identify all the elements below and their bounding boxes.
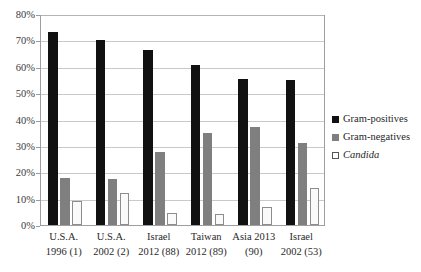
x-axis-category-label: U.S.A.1996 (1) — [40, 229, 88, 259]
bar — [48, 32, 58, 225]
bar — [108, 179, 118, 225]
bar-group — [48, 15, 82, 225]
bar — [143, 50, 153, 225]
y-axis-tick-label: 10% — [16, 195, 35, 205]
bar-group — [286, 15, 320, 225]
legend-label: Candida — [343, 149, 379, 161]
y-axis-tick-label: 50% — [16, 89, 35, 99]
y-axis: 0%10%20%30%40%50%60%70%80% — [0, 0, 40, 272]
bar-group — [96, 15, 130, 225]
bars-layer — [41, 15, 324, 225]
y-axis-tick-label: 60% — [16, 63, 35, 73]
legend-swatch-icon — [332, 134, 339, 141]
legend-item[interactable]: Candida — [332, 146, 421, 164]
bar-chart: 0%10%20%30%40%50%60%70%80% U.S.A.1996 (1… — [0, 0, 421, 272]
x-axis-category-labels: U.S.A.1996 (1)U.S.A.2002 (2)Israel2012 (… — [40, 229, 325, 272]
chart-legend: Gram-positivesGram-negativesCandida — [332, 110, 421, 164]
legend-swatch-icon — [332, 116, 339, 123]
bar-group — [191, 15, 225, 225]
bar — [238, 79, 248, 225]
x-axis-category-label: Asia 2013(90) — [230, 229, 278, 259]
x-axis-category-label: Israel2002 (53) — [278, 229, 326, 259]
bar — [167, 213, 177, 225]
bar — [60, 178, 70, 225]
y-axis-tick-label: 30% — [16, 142, 35, 152]
y-axis-tick-label: 80% — [16, 10, 35, 20]
bar — [72, 201, 82, 225]
bar — [120, 193, 130, 225]
x-axis-category-label: Taiwan2012 (89) — [183, 229, 231, 259]
bar — [298, 143, 308, 225]
legend-item[interactable]: Gram-positives — [332, 110, 421, 128]
x-axis-category-label: U.S.A.2002 (2) — [88, 229, 136, 259]
y-axis-tick-mark — [36, 226, 40, 227]
bar — [310, 188, 320, 225]
bar-group — [238, 15, 272, 225]
x-axis-category-label: Israel2012 (88) — [135, 229, 183, 259]
bar — [155, 152, 165, 225]
bar — [286, 80, 296, 225]
legend-swatch-icon — [332, 152, 339, 159]
legend-label: Gram-positives — [343, 113, 408, 125]
bar — [215, 214, 225, 225]
bar — [191, 65, 201, 225]
legend-label: Gram-negatives — [343, 131, 410, 143]
bar-group — [143, 15, 177, 225]
y-axis-tick-label: 70% — [16, 36, 35, 46]
plot-area — [40, 15, 325, 226]
bar — [96, 40, 106, 225]
legend-item[interactable]: Gram-negatives — [332, 128, 421, 146]
y-axis-tick-label: 0% — [21, 221, 35, 231]
y-axis-tick-label: 40% — [16, 116, 35, 126]
bar — [262, 207, 272, 225]
bar — [250, 127, 260, 225]
y-axis-tick-label: 20% — [16, 168, 35, 178]
bar — [203, 133, 213, 225]
